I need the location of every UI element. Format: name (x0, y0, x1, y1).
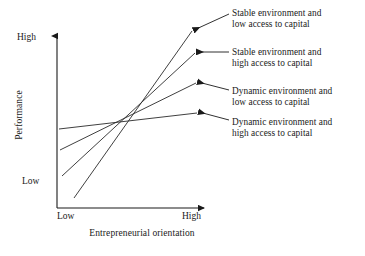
series-line-stable-high-capital (62, 53, 195, 176)
leader-line-stable-low-capital (194, 14, 229, 30)
annotation-line-1: Dynamic environment and (232, 117, 332, 128)
annotation-line-2: low access to capital (232, 97, 332, 108)
y-tick-high: High (17, 32, 36, 42)
x-tick-high: High (182, 211, 201, 221)
annotation-line-1: Stable environment and (232, 47, 321, 58)
leader-line-dynamic-high-capital (199, 112, 229, 120)
annotation-line-1: Dynamic environment and (232, 86, 332, 97)
series-line-dynamic-low-capital (60, 83, 196, 150)
interaction-plot-figure: Performance Entrepreneurial orientation … (0, 0, 365, 256)
y-axis-title: Performance (14, 70, 24, 160)
annotation-stable-high-capital: Stable environment and high access to ca… (232, 47, 321, 70)
x-tick-low: Low (57, 211, 74, 221)
x-axis-title: Entrepreneurial orientation (62, 228, 222, 238)
annotation-stable-low-capital: Stable environment and low access to cap… (232, 8, 321, 31)
y-tick-low: Low (22, 176, 39, 186)
annotation-line-2: high access to capital (232, 58, 321, 69)
annotation-line-1: Stable environment and (232, 8, 321, 19)
annotation-dynamic-high-capital: Dynamic environment and high access to c… (232, 117, 332, 140)
annotation-line-2: high access to capital (232, 128, 332, 139)
annotation-dynamic-low-capital: Dynamic environment and low access to ca… (232, 86, 332, 109)
annotation-line-2: low access to capital (232, 19, 321, 30)
leader-line-dynamic-low-capital (198, 82, 229, 90)
